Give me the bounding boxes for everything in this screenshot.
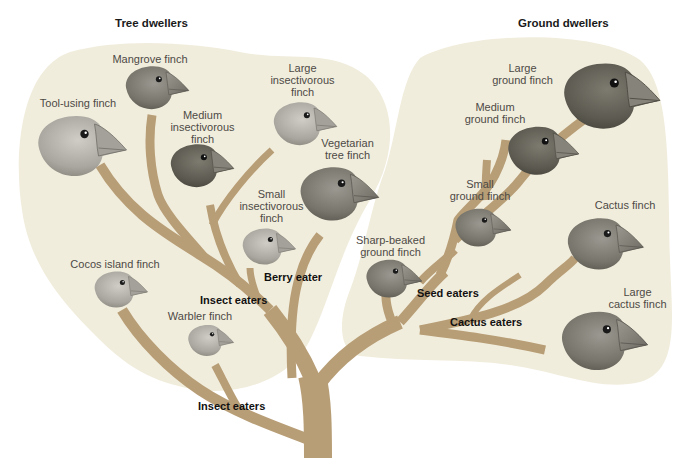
species-label-medium-insectivorous-finch: Medium insectivorous finch bbox=[160, 109, 245, 145]
diagram-artwork bbox=[0, 0, 693, 474]
group-title-tree-dwellers: Tree dwellers bbox=[115, 17, 188, 29]
finch-phylogeny-diagram: Tree dwellers Ground dwellers Mangrove f… bbox=[0, 0, 693, 474]
species-label-medium-ground-finch: Medium ground finch bbox=[455, 101, 535, 125]
diet-label-seed-eaters: Seed eaters bbox=[417, 287, 479, 299]
species-label-small-insectivorous-finch: Small insectivorous finch bbox=[229, 188, 314, 224]
species-label-cactus-finch: Cactus finch bbox=[585, 199, 665, 211]
diet-label-berry-eater: Berry eater bbox=[264, 271, 322, 283]
species-label-warbler-finch: Warbler finch bbox=[160, 310, 240, 322]
species-label-large-ground-finch: Large ground finch bbox=[485, 62, 560, 86]
species-label-mangrove-finch: Mangrove finch bbox=[110, 53, 190, 65]
species-label-tool-using-finch: Tool-using finch bbox=[28, 97, 128, 109]
species-label-large-cactus-finch: Large cactus finch bbox=[600, 286, 675, 310]
species-label-cocos-island-finch: Cocos island finch bbox=[60, 258, 170, 270]
species-label-vegetarian-tree-finch: Vegetarian tree finch bbox=[305, 137, 390, 161]
species-label-sharp-beaked-ground-finch: Sharp-beaked ground finch bbox=[348, 234, 433, 258]
species-label-large-insectivorous-finch: Large insectivorous finch bbox=[260, 62, 345, 98]
diet-label-insect-eaters-upper: Insect eaters bbox=[200, 294, 267, 306]
diet-label-insect-eaters-lower: Insect eaters bbox=[198, 400, 265, 412]
group-title-ground-dwellers: Ground dwellers bbox=[518, 17, 609, 29]
species-label-small-ground-finch: Small ground finch bbox=[440, 178, 520, 202]
diet-label-cactus-eaters: Cactus eaters bbox=[450, 316, 522, 328]
